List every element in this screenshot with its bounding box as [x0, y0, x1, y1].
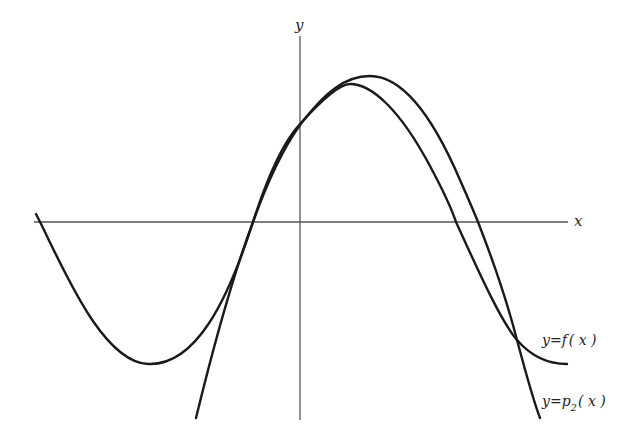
- function-diagram: y x y=f( x ) y=p2( x ): [0, 0, 637, 448]
- y-axis-label: y: [294, 16, 304, 34]
- curve-f: [36, 84, 567, 364]
- x-axis-label: x: [574, 212, 583, 230]
- curve-p2: [196, 76, 540, 418]
- label-f: y=f( x ): [541, 332, 597, 348]
- label-p2: y=p2( x ): [541, 393, 606, 413]
- svg-text:y=f( x ): y=f( x ): [541, 332, 597, 348]
- svg-text:y=p2( x ): y=p2( x ): [541, 393, 606, 413]
